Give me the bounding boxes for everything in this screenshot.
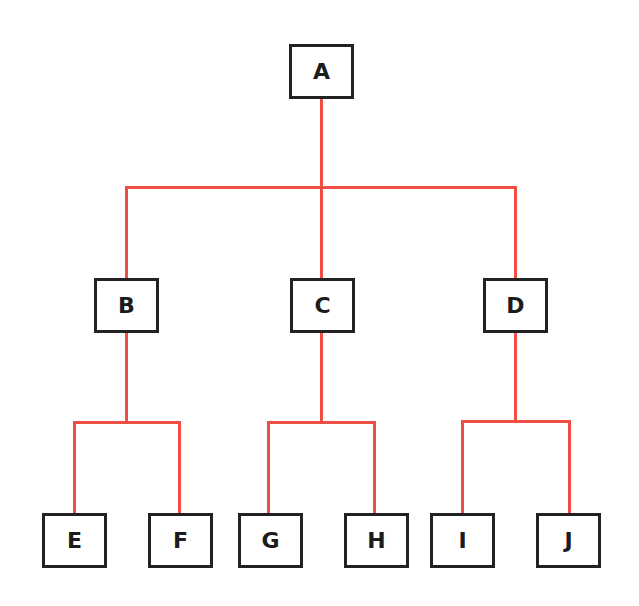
node-f: F — [148, 513, 213, 568]
edge-a-d — [514, 186, 517, 279]
edge-d-i — [461, 420, 464, 514]
edge-c-h — [373, 421, 376, 514]
edge-c-bar — [267, 421, 376, 424]
node-e: E — [42, 513, 107, 568]
node-c: C — [290, 278, 355, 333]
node-g: G — [238, 513, 303, 568]
edge-b-f — [178, 421, 181, 514]
edge-b-e — [73, 421, 76, 514]
edge-c-g — [267, 421, 270, 514]
node-h: H — [344, 513, 409, 568]
edge-d-stem — [514, 332, 517, 422]
tree-diagram: A B C D E F G H I J — [0, 0, 639, 606]
node-d: D — [483, 278, 548, 333]
edge-d-j — [568, 420, 571, 514]
edge-a-b — [125, 186, 128, 279]
edge-b-bar — [73, 421, 181, 424]
node-i: I — [430, 513, 495, 568]
edge-c-stem — [320, 332, 323, 423]
node-a: A — [289, 44, 354, 99]
edge-a-stem — [320, 98, 323, 188]
node-j: J — [536, 513, 601, 568]
edge-a-c — [320, 186, 323, 279]
edge-b-stem — [125, 332, 128, 423]
node-b: B — [94, 278, 159, 333]
edge-d-bar — [461, 420, 571, 423]
